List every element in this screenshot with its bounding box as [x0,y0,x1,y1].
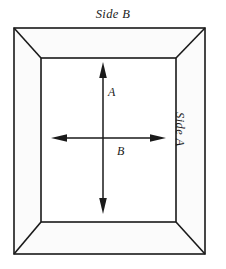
label-side-b: Side B [0,8,226,21]
label-dimension-b: B [117,145,125,157]
label-side-a: Side A [174,112,187,146]
frame-diagram: Side B Side A A B [0,0,226,269]
label-dimension-a: A [108,86,116,98]
frame-drawing [0,0,226,269]
